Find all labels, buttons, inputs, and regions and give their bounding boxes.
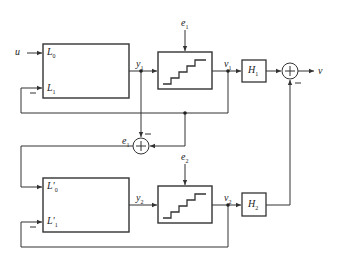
- e1-sum-label: e1: [122, 136, 129, 148]
- e1-quant-label: e1: [181, 18, 188, 30]
- e2-quant-label: e2: [181, 152, 188, 164]
- v1-label: v1: [224, 59, 231, 71]
- y2-label: y2: [136, 193, 143, 205]
- lower-in0-label: L′0: [47, 181, 58, 193]
- h2-label: H2: [248, 199, 258, 211]
- output-label: v: [318, 66, 322, 76]
- y1-label: y1: [136, 59, 143, 71]
- staircase-icon: [163, 60, 206, 84]
- v2-label: v2: [224, 193, 231, 205]
- h1-label: H1: [248, 65, 258, 77]
- upper-block: [43, 44, 129, 98]
- lower-in1-label: L′1: [47, 216, 58, 228]
- upper-in1-label: L1: [47, 83, 56, 95]
- staircase-icon: [163, 194, 206, 218]
- h2-to-sum-line: [266, 80, 290, 205]
- v1-to-sum-line: [150, 113, 185, 146]
- e1-to-lower-line: [21, 146, 133, 187]
- input-label: u: [15, 47, 20, 57]
- upper-in0-label: L0: [47, 47, 56, 59]
